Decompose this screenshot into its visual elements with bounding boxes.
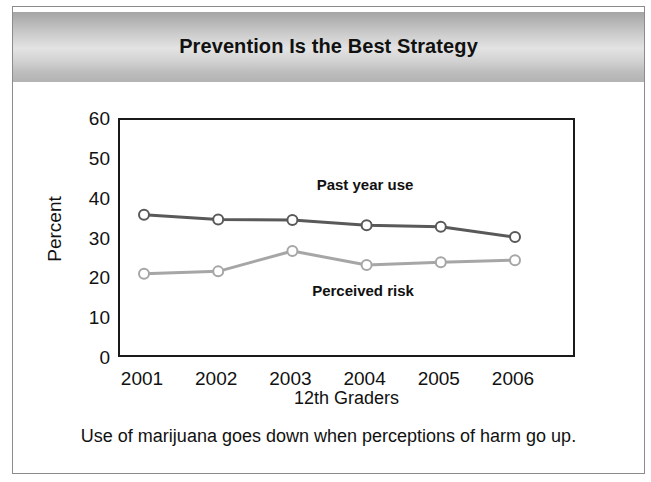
data-point-perceived-risk-2005 — [436, 257, 446, 267]
x-axis-title: 12th Graders — [118, 388, 575, 409]
x-tick-2003: 2003 — [260, 369, 320, 388]
x-tick-2005: 2005 — [409, 369, 469, 388]
series-label-perceived-risk: Perceived risk — [253, 282, 473, 299]
series-line-past-year-use — [144, 215, 515, 237]
data-point-past-year-use-2003 — [287, 215, 297, 225]
x-tick-2004: 2004 — [335, 369, 395, 388]
y-tick-0: 0 — [50, 348, 110, 367]
data-point-perceived-risk-2003 — [287, 246, 297, 256]
y-tick-20: 20 — [50, 268, 110, 287]
y-tick-60: 60 — [50, 109, 110, 128]
y-tick-40: 40 — [50, 189, 110, 208]
y-tick-50: 50 — [50, 149, 110, 168]
screenshot-root: Prevention Is the Best Strategy Percent … — [0, 0, 651, 482]
data-point-past-year-use-2006 — [510, 232, 520, 242]
plot-frame — [118, 118, 575, 357]
y-tick-30: 30 — [50, 229, 110, 248]
data-point-past-year-use-2001 — [139, 210, 149, 220]
data-point-past-year-use-2004 — [362, 220, 372, 230]
series-label-past-year-use: Past year use — [255, 176, 475, 193]
x-tick-2006: 2006 — [483, 369, 543, 388]
data-point-perceived-risk-2004 — [362, 260, 372, 270]
data-point-perceived-risk-2006 — [510, 255, 520, 265]
data-point-past-year-use-2002 — [213, 215, 223, 225]
figure-caption: Use of marijuana goes down when percepti… — [13, 426, 644, 447]
data-point-perceived-risk-2002 — [213, 266, 223, 276]
series-plot — [120, 120, 577, 359]
title-banner: Prevention Is the Best Strategy — [13, 12, 644, 82]
data-point-perceived-risk-2001 — [139, 269, 149, 279]
y-tick-10: 10 — [50, 308, 110, 327]
page-title: Prevention Is the Best Strategy — [179, 35, 478, 60]
x-tick-2002: 2002 — [186, 369, 246, 388]
chart-area: Percent 0102030405060 200120022003200420… — [13, 83, 644, 473]
x-tick-2001: 2001 — [112, 369, 172, 388]
series-line-perceived-risk — [144, 251, 515, 274]
data-point-past-year-use-2005 — [436, 222, 446, 232]
